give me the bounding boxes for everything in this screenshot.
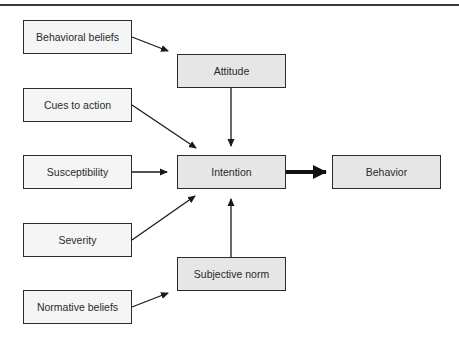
node-subjective-norm: Subjective norm [177,257,286,291]
node-label: Subjective norm [194,268,269,280]
arrow-normative-to-norm [132,293,168,307]
node-susceptibility: Susceptibility [23,155,132,189]
node-label: Behavioral beliefs [36,31,119,43]
node-behavioral-beliefs: Behavioral beliefs [23,20,132,54]
node-label: Intention [211,166,251,178]
node-severity: Severity [23,223,132,257]
node-intention: Intention [177,155,286,189]
node-label: Normative beliefs [37,301,118,313]
node-label: Attitude [214,65,250,77]
node-label: Susceptibility [47,166,108,178]
node-label: Cues to action [44,99,111,111]
arrow-severity-to-intention [132,196,195,240]
node-cues-to-action: Cues to action [23,88,132,122]
node-normative-beliefs: Normative beliefs [23,290,132,324]
node-behavior: Behavior [332,155,441,189]
arrow-cues-to-intention [132,105,196,148]
node-label: Behavior [366,166,407,178]
node-label: Severity [59,234,97,246]
node-attitude: Attitude [177,54,286,88]
arrow-beliefs-to-attitude [132,37,168,51]
